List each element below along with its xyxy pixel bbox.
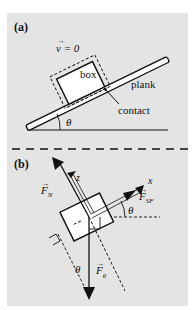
angle-label-a: θ (66, 116, 72, 128)
box-label: box (80, 68, 97, 80)
angle-label-lower: θ (75, 263, 81, 275)
normal-force-vector-arrow: → (41, 179, 49, 188)
plank-label: plank (131, 78, 156, 90)
panel-b-label: (b) (14, 157, 29, 171)
panel-b: (b) z x (14, 157, 160, 300)
z-axis-label: z (75, 172, 80, 183)
physics-diagram: (a) box v = 0 → plank contact θ (0, 0, 196, 310)
perpendicular-dashed (89, 217, 125, 291)
plank (26, 56, 170, 130)
tilted-dashed-line (58, 234, 89, 296)
angle-arc-upper (121, 201, 125, 217)
panel-a-label: (a) (14, 20, 28, 34)
gravity-vector-arrow: → (96, 259, 104, 268)
x-axis-label: x (147, 175, 153, 186)
panel-a: (a) box v = 0 → plank contact θ (14, 20, 169, 131)
velocity-vector-arrow: → (57, 36, 65, 45)
contact-label: contact (118, 104, 150, 116)
angle-label-upper: θ (128, 204, 134, 216)
gravity-arrowhead (83, 287, 95, 300)
static-friction-vector-arrow: → (139, 185, 147, 194)
